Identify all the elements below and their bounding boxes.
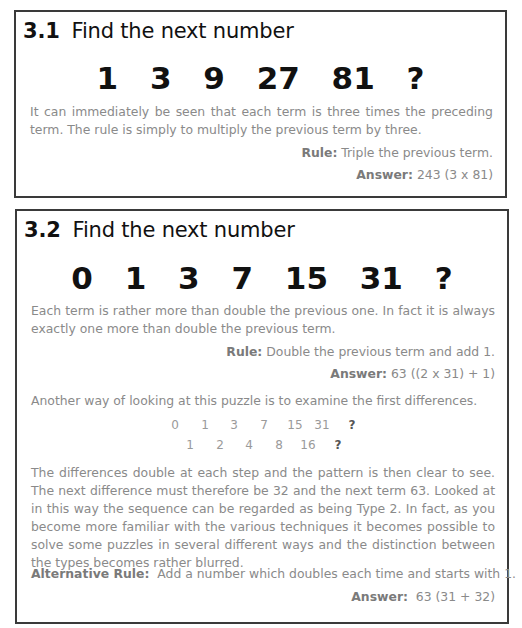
number-sequence: 1 3 9 27 81 ? bbox=[16, 60, 505, 96]
sequence-term: 3 bbox=[150, 60, 172, 96]
sequence-term: 0 bbox=[71, 260, 93, 296]
answer-line: Answer: 243 (3 x 81) bbox=[356, 167, 493, 182]
puzzle-title: 3.2Find the next number bbox=[24, 218, 295, 242]
answer-label: Answer: bbox=[356, 167, 413, 182]
diff-value: 1 bbox=[178, 438, 202, 452]
rule-label: Rule: bbox=[301, 145, 337, 160]
rule-line: Rule: Triple the previous term. bbox=[301, 145, 493, 160]
answer-text: 243 (3 x 81) bbox=[413, 167, 493, 182]
sequence-term: 9 bbox=[203, 60, 225, 96]
sequence-term: 1 bbox=[97, 60, 119, 96]
alternative-rule-label: Alternative Rule: bbox=[31, 566, 149, 581]
sequence-term: 15 bbox=[285, 260, 328, 296]
puzzle-number: 3.2 bbox=[24, 218, 61, 242]
diff-value: 8 bbox=[267, 438, 291, 452]
sequence-unknown: ? bbox=[435, 260, 453, 296]
diff-term: 15 bbox=[283, 418, 307, 432]
sequence-term: 1 bbox=[125, 260, 147, 296]
differences-terms-row: 0 1 3 7 15 31 ? bbox=[17, 418, 507, 434]
diff-term-unknown: ? bbox=[340, 418, 364, 432]
diff-term: 3 bbox=[222, 418, 246, 432]
number-sequence: 0 1 3 7 15 31 ? bbox=[17, 260, 507, 296]
differences-explanation: The differences double at each step and … bbox=[31, 464, 495, 572]
differences-intro: Another way of looking at this puzzle is… bbox=[31, 393, 477, 408]
explanation-paragraph: Each term is rather more than double the… bbox=[31, 302, 495, 338]
sequence-term: 27 bbox=[257, 60, 300, 96]
sequence-term: 31 bbox=[360, 260, 403, 296]
sequence-term: 7 bbox=[231, 260, 253, 296]
sequence-unknown: ? bbox=[407, 60, 425, 96]
alternative-rule-line: Alternative Rule: Add a number which dou… bbox=[31, 566, 516, 581]
answer-text: 63 ((2 x 31) + 1) bbox=[387, 366, 495, 381]
sequence-term: 81 bbox=[332, 60, 375, 96]
sequence-term: 3 bbox=[178, 260, 200, 296]
diff-value: 16 bbox=[296, 438, 320, 452]
alternative-answer-label: Answer: bbox=[351, 589, 408, 604]
alternative-answer-line: Answer: 63 (31 + 32) bbox=[351, 589, 495, 604]
diff-value-unknown: ? bbox=[326, 438, 350, 452]
puzzle-number: 3.1 bbox=[23, 19, 60, 43]
rule-text: Triple the previous term. bbox=[337, 145, 493, 160]
answer-label: Answer: bbox=[330, 366, 387, 381]
diff-term: 0 bbox=[163, 418, 187, 432]
answer-line: Answer: 63 ((2 x 31) + 1) bbox=[330, 366, 495, 381]
explanation-paragraph: It can immediately be seen that each ter… bbox=[30, 103, 493, 139]
alternative-answer-text: 63 (31 + 32) bbox=[408, 589, 495, 604]
puzzle-title-text: Find the next number bbox=[73, 218, 295, 242]
alternative-rule-text: Add a number which doubles each time and… bbox=[149, 566, 516, 581]
rule-label: Rule: bbox=[226, 344, 262, 359]
diff-term: 31 bbox=[310, 418, 334, 432]
puzzle-3-1-box: 3.1Find the next number 1 3 9 27 81 ? It… bbox=[14, 10, 507, 198]
rule-line: Rule: Double the previous term and add 1… bbox=[226, 344, 495, 359]
puzzle-title-text: Find the next number bbox=[72, 19, 294, 43]
diff-value: 2 bbox=[208, 438, 232, 452]
puzzle-title: 3.1Find the next number bbox=[23, 19, 294, 43]
puzzle-3-2-box: 3.2Find the next number 0 1 3 7 15 31 ? … bbox=[15, 209, 509, 624]
diff-value: 4 bbox=[237, 438, 261, 452]
diff-term: 1 bbox=[193, 418, 217, 432]
rule-text: Double the previous term and add 1. bbox=[262, 344, 495, 359]
differences-values-row: 1 2 4 8 16 ? bbox=[17, 438, 507, 454]
diff-term: 7 bbox=[252, 418, 276, 432]
